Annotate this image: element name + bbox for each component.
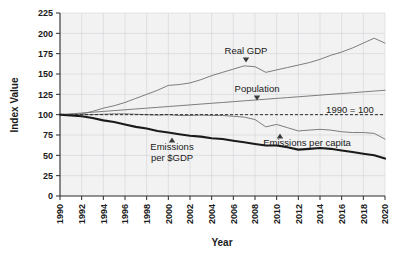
tick-label-x: 2004 bbox=[207, 204, 217, 224]
tick-label-x: 2000 bbox=[164, 204, 174, 224]
tick-label-y: 0 bbox=[48, 191, 53, 201]
tick-label-y: 225 bbox=[38, 8, 53, 18]
tick-label-x: 2014 bbox=[315, 204, 325, 224]
annotation-real-gdp: Real GDP bbox=[225, 45, 268, 56]
index-value-line-chart: Real GDPPopulation1990 = 100Emissionsper… bbox=[0, 0, 405, 255]
tick-label-x: 1998 bbox=[142, 204, 152, 224]
tick-label-y: 200 bbox=[38, 29, 53, 39]
tick-label-x: 2008 bbox=[250, 204, 260, 224]
tick-label-x: 1990 bbox=[55, 204, 65, 224]
tick-label-y: 150 bbox=[38, 69, 53, 79]
tick-label-y: 100 bbox=[38, 110, 53, 120]
annotation-emissions-per-gdp-l2: per $GDP bbox=[151, 152, 193, 163]
tick-label-y: 25 bbox=[43, 171, 53, 181]
annotation-baseline: 1990 = 100 bbox=[326, 104, 374, 115]
tick-label-x: 2020 bbox=[380, 204, 390, 224]
tick-label-x: 1992 bbox=[77, 204, 87, 224]
tick-label-y: 125 bbox=[38, 90, 53, 100]
tick-label-x: 2016 bbox=[337, 204, 347, 224]
tick-label-y: 75 bbox=[43, 130, 53, 140]
tick-label-x: 2018 bbox=[359, 204, 369, 224]
annotation-emissions-per-capita: Emissions per capita bbox=[263, 137, 351, 148]
y-axis-title: Index Value bbox=[9, 77, 20, 132]
tick-label-y: 175 bbox=[38, 49, 53, 59]
annotation-population: Population bbox=[235, 83, 280, 94]
tick-label-x: 2010 bbox=[272, 204, 282, 224]
annotation-emissions-per-gdp-l1: Emissions bbox=[150, 141, 194, 152]
tick-label-x: 1996 bbox=[120, 204, 130, 224]
tick-label-y: 50 bbox=[43, 151, 53, 161]
tick-label-x: 1994 bbox=[99, 204, 109, 224]
tick-label-x: 2012 bbox=[294, 204, 304, 224]
tick-label-x: 2002 bbox=[185, 204, 195, 224]
tick-label-x: 2006 bbox=[229, 204, 239, 224]
x-axis-title: Year bbox=[211, 237, 232, 248]
chart-container: Real GDPPopulation1990 = 100Emissionsper… bbox=[0, 0, 405, 255]
